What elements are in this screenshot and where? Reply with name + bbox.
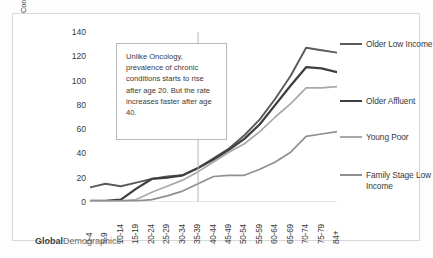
y-axis-tick-labels: 020406080100120140	[60, 32, 86, 202]
x-axis-tick-labels: 0-45-910-1415-1920-2425-2930-3435-3940-4…	[90, 204, 337, 244]
x-tick-35-39: 35-39	[193, 224, 202, 244]
x-tick-55-59: 55-59	[255, 224, 264, 244]
y-tick-0: 0	[60, 197, 86, 207]
y-axis-title-line1: Total Prevalance for 5 Chronic	[9, 0, 19, 28]
x-tick-25-29: 25-29	[162, 224, 171, 244]
legend-swatch-icon	[340, 43, 362, 45]
x-tick-60-64: 60-64	[270, 224, 279, 244]
annotation-text: Unlike Oncology, prevalence of chronic c…	[126, 52, 212, 117]
series-line-family-stage-low-income	[90, 132, 337, 201]
y-tick-80: 80	[60, 100, 86, 110]
legend-entry-young-poor[interactable]: Young Poor	[340, 132, 408, 143]
x-tick-70-74: 70-74	[301, 224, 310, 244]
y-tick-20: 20	[60, 173, 86, 183]
legend-label: Older Low Income	[366, 39, 432, 50]
x-tick-50-54: 50-54	[239, 224, 248, 244]
y-tick-120: 120	[60, 51, 86, 61]
x-tick-40-44: 40-44	[209, 224, 218, 244]
legend-label: Older Affluent	[366, 96, 415, 107]
y-axis-title-line2: Conditions by Age and Country Segment	[19, 0, 29, 28]
x-tick-45-49: 45-49	[224, 224, 233, 244]
x-tick-15-19: 15-19	[131, 224, 140, 244]
chart-screenshot: Total Prevalance for 5 Chronic Condition…	[0, 0, 433, 258]
legend-swatch-icon	[340, 136, 362, 138]
y-tick-100: 100	[60, 76, 86, 86]
x-tick-65-69: 65-69	[286, 224, 295, 244]
y-tick-140: 140	[60, 27, 86, 37]
brand-bold: Global	[35, 236, 63, 246]
legend-entry-older-low-income[interactable]: Older Low Income	[340, 39, 432, 50]
chart-frame: Total Prevalance for 5 Chronic Condition…	[12, 13, 420, 241]
y-tick-40: 40	[60, 148, 86, 158]
x-tick-75-79: 75-79	[317, 224, 326, 244]
y-tick-60: 60	[60, 124, 86, 134]
x-tick-30-34: 30-34	[178, 224, 187, 244]
y-axis-title: Total Prevalance for 5 Chronic Condition…	[9, 0, 43, 28]
legend-swatch-icon	[340, 174, 362, 176]
legend-label: Family Stage Low Income	[366, 170, 433, 192]
legend-label: Young Poor	[366, 132, 408, 143]
brand-logo: GlobalDemographics	[35, 236, 121, 246]
x-tick-84+: 84+	[332, 231, 341, 244]
legend-swatch-icon	[340, 100, 362, 102]
chart-legend: Older Low IncomeOlder AffluentYoung Poor…	[340, 39, 433, 184]
legend-entry-family-stage-low-income[interactable]: Family Stage Low Income	[340, 170, 433, 192]
x-tick-20-24: 20-24	[147, 224, 156, 244]
brand-light: Demographics	[63, 236, 121, 246]
annotation-callout: Unlike Oncology, prevalence of chronic c…	[116, 43, 227, 140]
legend-entry-older-affluent[interactable]: Older Affluent	[340, 96, 415, 107]
